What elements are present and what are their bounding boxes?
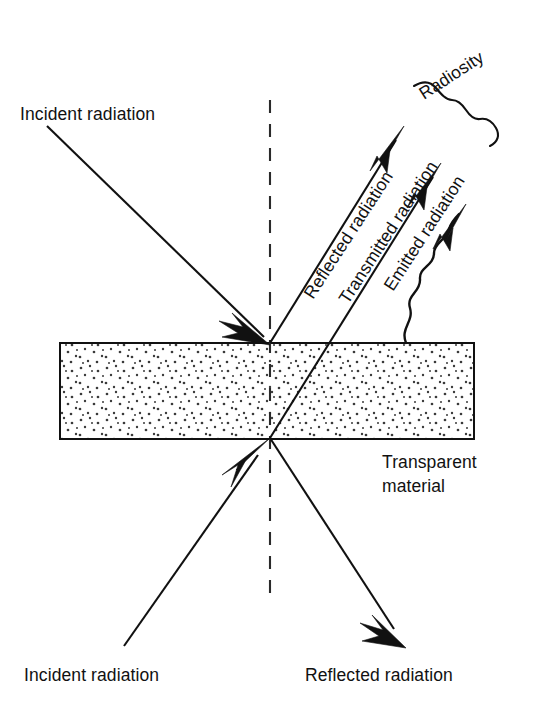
label-incident-radiation-top: Incident radiation [20, 104, 155, 124]
label-reflected-radiation-bottom: Reflected radiation [305, 665, 453, 685]
label-transparent-material-line1: Transparent [382, 452, 477, 472]
label-incident-radiation-bottom: Incident radiation [24, 665, 159, 685]
slab-rect [60, 343, 474, 439]
radiation-diagram: Incident radiation Reflected radiation T… [0, 0, 547, 706]
label-transparent-material-line2: material [382, 476, 445, 496]
transparent-material-slab [60, 343, 474, 439]
